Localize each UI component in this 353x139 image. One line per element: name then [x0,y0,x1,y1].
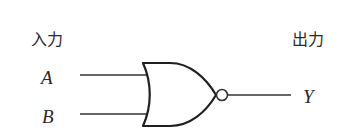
nor-gate-body [143,63,216,126]
input-heading: 入力 [31,30,63,49]
nor-gate-diagram: 入力 出力 A B Y [0,0,353,139]
input-label-a: A [39,67,53,88]
input-label-b: B [42,106,54,127]
inversion-bubble [217,90,228,101]
output-label-y: Y [303,86,316,107]
output-heading: 出力 [292,30,324,49]
